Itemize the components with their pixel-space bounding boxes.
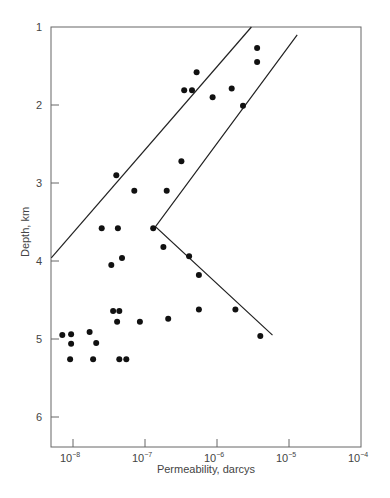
y-tick-label: 5 [36, 333, 42, 345]
data-point [116, 356, 122, 362]
data-point [137, 319, 143, 325]
data-point [87, 329, 93, 335]
data-point [178, 158, 184, 164]
data-point [254, 45, 260, 51]
y-axis-title: Depth, km [19, 207, 31, 257]
data-point [160, 244, 166, 250]
upper-bound-line [51, 27, 251, 258]
x-tick-label: 10−7 [132, 451, 152, 464]
data-point [59, 332, 65, 338]
data-point [67, 356, 73, 362]
x-tick-label: 10−5 [276, 451, 296, 464]
lower-bound-line [156, 35, 298, 335]
y-axis: 123456 [36, 21, 59, 423]
data-point [181, 87, 187, 93]
data-point [189, 87, 195, 93]
data-point [254, 59, 260, 65]
data-point [123, 356, 129, 362]
data-point [68, 341, 74, 347]
data-point [196, 306, 202, 312]
data-point [194, 69, 200, 75]
y-tick-label: 2 [36, 99, 42, 111]
data-point [232, 306, 238, 312]
y-tick-label: 1 [36, 21, 42, 33]
data-point [257, 333, 263, 339]
data-point [240, 103, 246, 109]
data-point [93, 340, 99, 346]
data-point [150, 225, 156, 231]
x-tick-label: 10−4 [348, 451, 368, 464]
y-tick-label: 3 [36, 177, 42, 189]
data-point [165, 316, 171, 322]
x-axis-title: Permeability, darcys [157, 463, 256, 475]
permeability-depth-chart: 10−810−710−610−510−4 123456 Permeability… [0, 0, 390, 498]
plot-border [51, 27, 361, 447]
y-tick-label: 6 [36, 411, 42, 423]
trend-lines [51, 27, 297, 335]
data-point [119, 255, 125, 261]
data-point [114, 319, 120, 325]
data-point [131, 188, 137, 194]
data-point [68, 331, 74, 337]
data-point [110, 308, 116, 314]
data-point [113, 172, 119, 178]
data-point [229, 86, 235, 92]
data-point [186, 253, 192, 259]
x-axis: 10−810−710−610−510−4 [60, 439, 368, 464]
data-point [116, 308, 122, 314]
data-point [90, 356, 96, 362]
y-tick-label: 4 [36, 255, 42, 267]
data-points [59, 45, 263, 362]
data-point [164, 188, 170, 194]
x-tick-label: 10−8 [60, 451, 80, 464]
plot-frame [51, 27, 361, 447]
data-point [108, 262, 114, 268]
data-point [115, 225, 121, 231]
data-point [99, 225, 105, 231]
data-point [210, 94, 216, 100]
data-point [196, 272, 202, 278]
